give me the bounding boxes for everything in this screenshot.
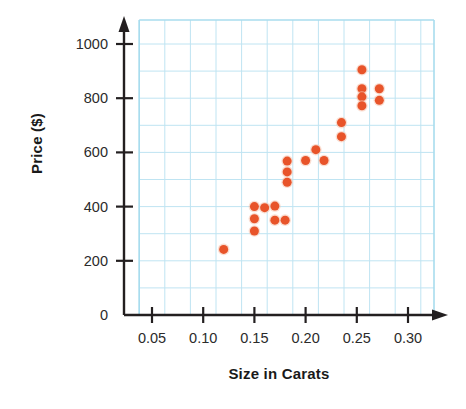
x-axis-tick-label: 0.25 bbox=[343, 330, 371, 346]
data-point bbox=[250, 202, 259, 211]
y-axis-tick-label: 1000 bbox=[40, 36, 108, 52]
x-axis-tick-label: 0.30 bbox=[394, 330, 422, 346]
y-axis-tick-label: 800 bbox=[40, 90, 108, 106]
data-point bbox=[260, 203, 269, 212]
data-point bbox=[337, 118, 346, 127]
data-point bbox=[320, 156, 329, 165]
data-point bbox=[283, 178, 292, 187]
data-point bbox=[357, 101, 366, 110]
data-point bbox=[281, 216, 290, 225]
x-axis-tick-label: 0.20 bbox=[291, 330, 319, 346]
x-axis-title: Size in Carats bbox=[124, 365, 434, 382]
data-point bbox=[270, 202, 279, 211]
x-axis-arrowhead-icon bbox=[432, 310, 448, 321]
data-point bbox=[250, 214, 259, 223]
y-axis-arrowhead-icon bbox=[119, 16, 130, 32]
data-point bbox=[375, 84, 384, 93]
x-axis-tick-label: 0.15 bbox=[240, 330, 268, 346]
x-axis-tick-label: 0.05 bbox=[138, 330, 166, 346]
data-point-layer bbox=[218, 64, 385, 255]
data-point bbox=[375, 96, 384, 105]
data-point bbox=[301, 156, 310, 165]
data-point bbox=[219, 245, 228, 254]
x-axis-tick-label: 0.10 bbox=[189, 330, 217, 346]
y-axis-tick-label: 0 bbox=[40, 307, 108, 323]
data-point bbox=[311, 145, 320, 154]
data-point bbox=[337, 132, 346, 141]
data-point bbox=[283, 157, 292, 166]
data-point bbox=[270, 216, 279, 225]
vertical-gridlines bbox=[139, 20, 421, 315]
data-point bbox=[357, 65, 366, 74]
y-axis-tick-label: 200 bbox=[40, 253, 108, 269]
scatter-plot-figure: Price ($) Size in Carats 020040060080010… bbox=[0, 0, 466, 409]
data-point bbox=[250, 226, 259, 235]
y-axis-tick-label: 400 bbox=[40, 199, 108, 215]
data-point bbox=[283, 167, 292, 176]
y-axis-tick-label: 600 bbox=[40, 144, 108, 160]
